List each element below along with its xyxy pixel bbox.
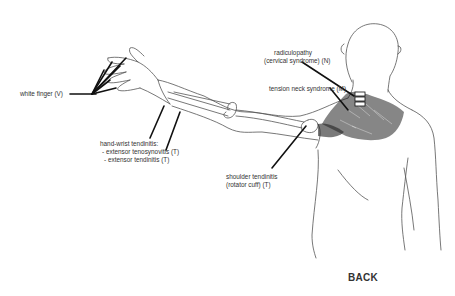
anatomy-figure bbox=[0, 0, 455, 296]
leader-extensor-tenosynovitis bbox=[150, 106, 164, 138]
label-extensor-tendinitis: - extensor tendinitis (T) bbox=[104, 156, 169, 164]
label-shoulder-tendinitis: shoulder tendinitis bbox=[226, 173, 278, 181]
view-label-back: BACK bbox=[348, 272, 378, 283]
label-tension-neck-syndrome: tension neck syndrome (M) bbox=[269, 85, 346, 93]
label-radiculopathy-subtitle: (cervical syndrome) (N) bbox=[264, 57, 330, 65]
head-outline bbox=[346, 24, 398, 92]
label-extensor-tenosynovitis: - extensor tenosynovitis (T) bbox=[102, 148, 179, 156]
hand-outline bbox=[129, 48, 158, 80]
label-hand-wrist-tendinitis: hand-wrist tendinitis: bbox=[100, 140, 158, 148]
leader-shoulder bbox=[272, 126, 306, 168]
cervical-spine bbox=[355, 92, 365, 106]
leader-extensor-tendinitis bbox=[166, 112, 180, 150]
label-radiculopathy: radiculopathy bbox=[274, 49, 312, 57]
label-rotator-cuff: (rotator cuff) (T) bbox=[226, 181, 271, 189]
label-white-finger: white finger (V) bbox=[20, 90, 63, 98]
